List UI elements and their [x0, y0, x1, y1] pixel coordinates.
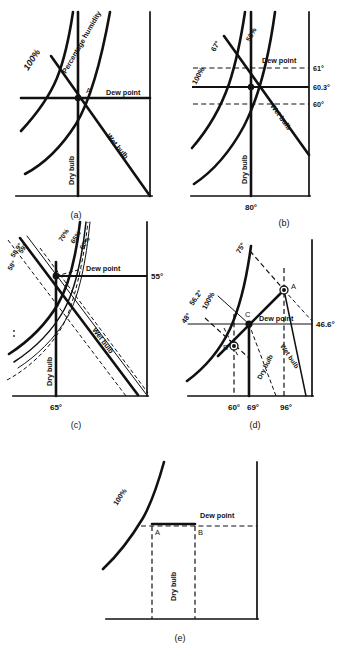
panel-d-label-69: 69° — [247, 403, 259, 412]
panel-c-label-55: 55° — [151, 272, 163, 281]
panel-d-wet-bulb-extension — [284, 290, 306, 396]
panel-d: 75° 100% 56.2° 48° A B C Dew point Dry b… — [178, 228, 353, 456]
panel-b-label-80: 80° — [245, 203, 257, 212]
panel-d-label-96: 96° — [280, 403, 292, 412]
panel-a-label-dry-bulb: Dry bulb — [67, 155, 76, 185]
panel-e-label-100: 100% — [111, 486, 129, 507]
panel-a-point-a-marker — [75, 95, 81, 101]
panel-d-label-dry-bulb: Dry bulb — [256, 353, 275, 380]
panel-b-label-dry-bulb: Dry bulb — [240, 154, 249, 184]
panel-d-label-dew-point: Dew point — [259, 314, 294, 323]
panel-c-wet-bulb-line — [20, 238, 138, 395]
panel-c-label-dew-point: Dew point — [86, 264, 121, 273]
panel-d-label-60: 60° — [228, 403, 240, 412]
panel-c-label-wet-bulb: Wet bulb — [90, 326, 116, 356]
panel-e-point-b-label: B — [198, 528, 203, 537]
panel-c-label-dry-bulb: Dry bulb — [45, 356, 54, 386]
panel-e-label-dew-point: Dew point — [200, 511, 235, 520]
panel-b-label-wet-bulb: Wet bulb — [268, 102, 293, 132]
panel-d-label-48: 48° — [179, 311, 193, 325]
panel-e: 100% A B Dew point Dry bulb (e) — [0, 456, 353, 658]
panel-c-label-60pct: 60% — [78, 236, 91, 251]
panel-d-point-b-dot — [232, 344, 236, 348]
panel-b-label-67: 67° — [209, 39, 222, 53]
panel-b-caption: (b) — [279, 218, 290, 228]
panel-e-label-dry-bulb: Dry bulb — [169, 571, 178, 601]
panel-a-label-wet-bulb: Wet bulb — [104, 132, 130, 162]
panel-d-point-c-marker — [245, 320, 252, 327]
panel-e-saturation-curve — [103, 462, 164, 569]
panel-e-point-a-label: A — [155, 528, 160, 537]
panel-b-label-50: 50% — [244, 25, 259, 42]
panel-c-intersection-marker — [53, 273, 60, 280]
panel-b-label-61: 61° — [313, 64, 324, 73]
panel-b-label-60: 60° — [313, 100, 324, 109]
panel-b: 100% 67° 50% Dew point Wet bulb Dry bulb… — [178, 0, 353, 228]
panel-b-humidity-50-curve — [194, 12, 275, 184]
panel-d-label-75: 75° — [234, 241, 247, 255]
panel-d-caption: (d) — [250, 420, 261, 430]
panel-d-label-466: 46.6° — [316, 320, 335, 329]
panel-e-caption: (e) — [175, 633, 186, 643]
panel-a: 100% Percentage humidity A Dew point Dry… — [0, 0, 178, 228]
panel-a-caption: (a) — [71, 210, 82, 220]
panel-b-intersection-marker — [248, 84, 254, 90]
panel-d-point-c-label: C — [245, 310, 251, 319]
panel-a-label-dew-point: Dew point — [106, 88, 141, 97]
panel-c-label-65: 65° — [50, 403, 62, 412]
panel-b-label-603: 60.3° — [313, 83, 330, 92]
panel-d-dashed-75-to-a — [250, 251, 284, 290]
panel-d-point-b-label: B — [223, 343, 228, 352]
panel-c-caption: (c) — [71, 420, 82, 430]
panel-d-saturation-curve — [187, 246, 251, 381]
panel-b-label-dew-point: Dew point — [262, 56, 297, 65]
panel-d-point-a-label: A — [291, 282, 296, 291]
panel-c-label-58: 58° — [6, 259, 17, 271]
panel-a-wet-bulb-line — [51, 56, 150, 196]
panel-a-point-a-label: A — [86, 86, 91, 95]
panel-a-label-100: 100% — [21, 47, 42, 72]
panel-c: 58° 58.9° 59° 70% 65% 60% Dew point Wet … — [0, 228, 178, 456]
panel-d-point-a-dot — [282, 288, 286, 292]
